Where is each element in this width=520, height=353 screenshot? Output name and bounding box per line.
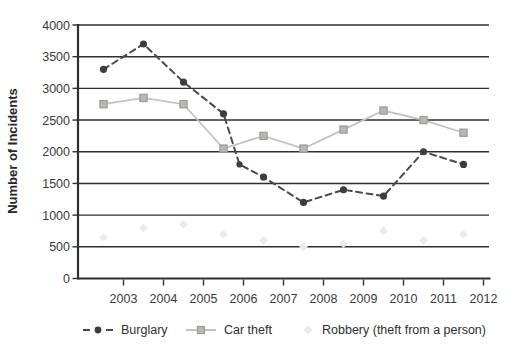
data-point-burglary — [140, 40, 147, 47]
data-point-robbery — [219, 230, 228, 239]
series-line-car-theft — [104, 98, 464, 149]
data-point-robbery — [139, 223, 148, 232]
data-point-burglary — [340, 186, 347, 193]
crime-incidents-line-chart: 0500100015002000250030003500400020032004… — [0, 0, 520, 353]
data-point-robbery — [99, 233, 108, 242]
data-point-burglary — [220, 110, 227, 117]
x-tick-label: 2009 — [350, 292, 378, 306]
data-point-car-theft — [220, 145, 227, 152]
y-tick-label: 500 — [49, 240, 70, 254]
data-point-car-theft — [180, 101, 187, 108]
x-tick-label: 2003 — [110, 292, 138, 306]
x-tick-label: 2008 — [310, 292, 338, 306]
data-point-burglary — [180, 78, 187, 85]
data-point-burglary — [380, 193, 387, 200]
data-point-burglary — [236, 161, 242, 167]
data-point-robbery — [419, 236, 428, 245]
data-point-robbery — [179, 220, 188, 229]
y-axis-title: Number of Incidents — [5, 88, 20, 214]
data-point-car-theft — [460, 129, 467, 136]
x-tick-label: 2007 — [270, 292, 298, 306]
data-point-car-theft — [140, 94, 147, 101]
data-point-burglary — [460, 161, 467, 168]
data-point-robbery — [379, 227, 388, 236]
y-tick-label: 1000 — [42, 209, 70, 223]
data-point-car-theft — [260, 132, 267, 139]
y-tick-label: 2500 — [42, 114, 70, 128]
data-point-burglary — [420, 148, 427, 155]
data-point-robbery — [459, 230, 468, 239]
y-tick-label: 3000 — [42, 82, 70, 96]
x-tick-label: 2011 — [430, 292, 457, 306]
data-point-car-theft — [300, 145, 307, 152]
data-point-burglary — [300, 199, 307, 206]
x-tick-label: 2004 — [150, 292, 178, 306]
y-tick-label: 3500 — [42, 50, 70, 64]
data-point-car-theft — [340, 126, 347, 133]
x-tick-label: 2005 — [190, 292, 218, 306]
data-point-robbery — [259, 236, 268, 245]
x-tick-label: 2010 — [390, 292, 418, 306]
data-point-burglary — [260, 174, 267, 181]
x-tick-label: 2006 — [230, 292, 258, 306]
x-tick-label: 2012 — [470, 292, 498, 306]
crime-incidents-line-chart-figure: 0500100015002000250030003500400020032004… — [0, 0, 520, 353]
data-point-robbery — [299, 242, 308, 251]
y-tick-label: 0 — [63, 272, 70, 286]
data-point-car-theft — [380, 107, 387, 114]
y-tick-label: 2000 — [42, 145, 70, 159]
data-point-car-theft — [420, 116, 427, 123]
y-tick-label: 4000 — [42, 19, 70, 33]
data-point-burglary — [100, 66, 107, 73]
series-line-burglary — [104, 44, 464, 202]
data-point-car-theft — [100, 101, 107, 108]
y-tick-label: 1500 — [42, 177, 70, 191]
